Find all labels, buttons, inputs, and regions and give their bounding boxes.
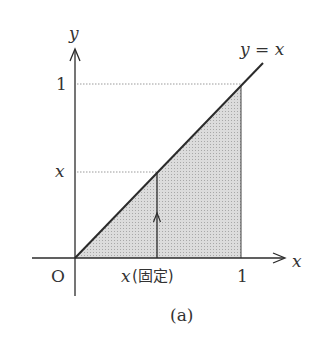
x-fixed-note: (固定) [132,267,174,285]
diagram-canvas: y x y = x 1 x O 1 x (固定) (a) [0,0,318,338]
x-fixed-var: x [121,266,131,286]
line-label: y = x [239,39,285,59]
y-tick-x: x [55,161,65,181]
origin-label: O [51,266,65,286]
figure-caption: (a) [170,305,193,325]
y-tick-one: 1 [56,74,67,94]
x-tick-one: 1 [237,266,248,286]
y-axis-label: y [68,23,79,43]
x-axis-label: x [292,251,302,271]
